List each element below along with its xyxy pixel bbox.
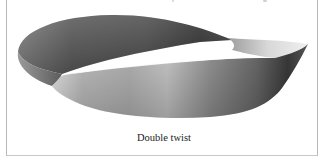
figure-caption: Double twist <box>0 132 328 143</box>
mobius-band-illustration <box>0 0 328 125</box>
